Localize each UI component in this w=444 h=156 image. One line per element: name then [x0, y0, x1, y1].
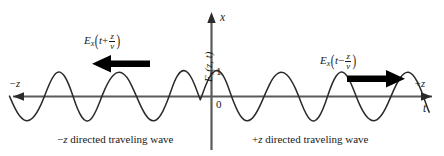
left-caption-text: directed traveling wave [68, 133, 174, 145]
horizontal-axis-name: t [423, 103, 426, 115]
wave-diagram-figure: x Ex(z, t) 1 0 −z +z t Ex(t+zv) Ex(t−zv)… [0, 0, 444, 156]
vertical-axis-name: x [220, 12, 225, 24]
left-propagation-arrow [92, 55, 150, 73]
left-field-subscript: x [91, 39, 95, 48]
right-field-fraction-numerator: z [345, 52, 351, 61]
left-field-open-paren: ( [95, 32, 99, 49]
right-field-operator: − [338, 54, 344, 66]
right-wave-caption: +z directed traveling wave [252, 134, 368, 145]
right-field-open-paren: ( [331, 52, 335, 69]
tick-label-one: 1 [216, 66, 222, 77]
left-arrow-shaft [108, 61, 150, 68]
axis-label-minus-z: −z [9, 79, 20, 90]
left-wave-caption: −z directed traveling wave [57, 134, 173, 145]
axis-label-plus-z: +z [414, 79, 425, 90]
right-field-close-paren: ) [353, 52, 357, 69]
left-field-fraction-denominator: v [109, 41, 115, 51]
horizontal-axis [13, 92, 432, 101]
left-field-symbol: E [84, 34, 91, 46]
left-field-operator: + [102, 34, 108, 46]
vertical-axis-label-arguments: (z, t) [202, 52, 214, 72]
vertical-axis-arrowhead [207, 12, 215, 23]
right-field-label: Ex(t−zv) [320, 52, 357, 71]
right-field-fraction: zv [345, 52, 351, 71]
left-field-fraction-numerator: z [109, 32, 115, 41]
left-field-close-paren: ) [117, 32, 121, 49]
origin-label: 0 [216, 99, 222, 110]
right-caption-text: directed traveling wave [263, 133, 369, 145]
right-field-subscript: x [327, 59, 331, 68]
vertical-axis-label-subscript: x [207, 72, 216, 76]
horizontal-axis-left-arrowhead [13, 92, 24, 101]
left-field-label: Ex(t+zv) [84, 32, 121, 51]
left-field-fraction: zv [109, 32, 115, 51]
left-arrow-head [92, 55, 111, 73]
right-field-fraction-denominator: v [345, 61, 351, 71]
vertical-axis-label: Ex(z, t) [203, 52, 216, 82]
right-arrow-shaft [347, 76, 389, 83]
vertical-axis-label-symbol: E [202, 75, 214, 82]
right-field-symbol: E [320, 54, 327, 66]
